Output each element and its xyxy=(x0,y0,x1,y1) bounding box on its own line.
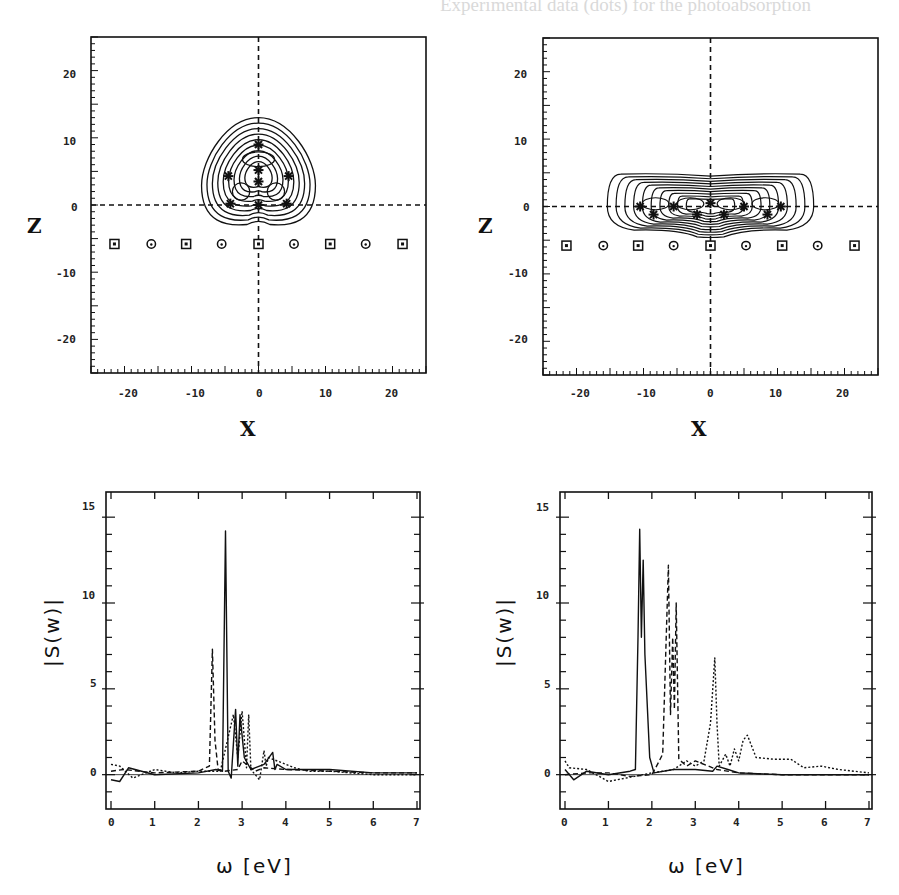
contour-left-svg xyxy=(0,0,450,440)
ion-star-icon xyxy=(706,198,716,208)
ion-star-icon xyxy=(692,210,702,220)
surface-circle-dot xyxy=(150,243,152,245)
y-tick-label: -20 xyxy=(508,333,528,346)
y-tick-label: 0 xyxy=(544,767,551,780)
surface-circle-dot xyxy=(602,245,604,247)
ion-star-icon xyxy=(254,176,264,186)
y-axis-title: Z xyxy=(27,214,42,238)
surface-square-dot xyxy=(257,242,260,245)
ion-star-icon xyxy=(635,202,645,212)
y-tick-label: 20 xyxy=(63,68,76,81)
y-tick-label: 5 xyxy=(544,678,551,691)
ion-star-icon xyxy=(719,210,729,220)
spectrum-curve-dashed xyxy=(565,565,869,776)
ion-star-icon xyxy=(762,210,772,220)
surface-circle-dot xyxy=(365,243,367,245)
ion-star-icon xyxy=(254,200,264,210)
y-tick-label: 0 xyxy=(523,201,530,214)
x-tick-label: 0 xyxy=(707,387,714,400)
surface-square-dot xyxy=(185,242,188,245)
density-lobe xyxy=(752,198,779,210)
x-tick-label: -20 xyxy=(118,387,138,400)
y-tick-label: -20 xyxy=(56,333,76,346)
surface-square-dot xyxy=(329,242,332,245)
x-tick-label: 10 xyxy=(319,387,332,400)
y-tick-label: 0 xyxy=(90,766,97,779)
surface-circle-dot xyxy=(672,245,674,247)
surface-circle-dot xyxy=(817,245,819,247)
x-tick-label: -20 xyxy=(570,387,590,400)
spectrum-left-svg xyxy=(0,440,450,895)
x-axis-title: X xyxy=(240,417,256,441)
x-tick-label: 20 xyxy=(385,387,398,400)
density-lobe xyxy=(677,198,704,210)
contour-right-svg xyxy=(450,0,899,440)
x-tick-label: -10 xyxy=(636,387,656,400)
ion-star-icon xyxy=(669,202,679,212)
ion-star-icon xyxy=(776,202,786,212)
x-axis-title: ω [eV] xyxy=(668,854,745,878)
surface-square-dot xyxy=(781,244,784,247)
surface-square-dot xyxy=(401,242,404,245)
contour-plot-left: 20 10 0 -10 -20 -20 -10 0 10 20 X Z xyxy=(0,0,450,440)
ion-star-icon xyxy=(254,140,264,150)
x-tick-label: 4 xyxy=(733,816,740,829)
y-axis-title: |S(w)| xyxy=(492,592,516,672)
x-tick-label: 0 xyxy=(561,816,568,829)
surface-circle-dot xyxy=(745,245,747,247)
x-tick-label: 3 xyxy=(690,816,697,829)
contour-plot-right: 20 10 0 -10 -20 -20 -10 0 10 20 X Z xyxy=(450,0,899,440)
y-tick-label: -10 xyxy=(56,267,76,280)
x-tick-label: 2 xyxy=(646,816,653,829)
y-tick-label: 10 xyxy=(536,589,549,602)
surface-square-dot xyxy=(709,244,712,247)
density-lobe xyxy=(642,198,669,210)
y-tick-label: 10 xyxy=(514,135,527,148)
surface-circle-dot xyxy=(293,243,295,245)
surface-circle-dot xyxy=(220,243,222,245)
surface-square-dot xyxy=(565,244,568,247)
spectrum-right-svg xyxy=(450,440,899,895)
y-axis-title: |S(w)| xyxy=(40,592,64,672)
x-tick-label: 1 xyxy=(602,816,609,829)
x-tick-label: 6 xyxy=(370,816,377,829)
x-axis-title: X xyxy=(691,417,707,441)
y-tick-label: 20 xyxy=(514,68,527,81)
ion-star-icon xyxy=(284,171,294,181)
x-tick-label: 10 xyxy=(769,387,782,400)
y-tick-label: 15 xyxy=(536,501,549,514)
x-tick-label: 20 xyxy=(836,387,849,400)
ion-star-icon xyxy=(254,165,264,175)
spectrum-plot-left: 15 10 5 0 0 1 2 3 4 5 6 7 ω [eV] |S(w)| xyxy=(0,440,450,895)
y-tick-label: 10 xyxy=(63,135,76,148)
x-tick-label: 5 xyxy=(777,816,784,829)
y-tick-label: 10 xyxy=(82,589,95,602)
y-tick-label: 0 xyxy=(71,201,78,214)
x-tick-label: 1 xyxy=(149,816,156,829)
x-axis-title: ω [eV] xyxy=(216,854,293,878)
y-axis-title: Z xyxy=(478,214,493,238)
ion-star-icon xyxy=(282,199,292,209)
ion-star-icon xyxy=(223,171,233,181)
spectrum-plot-right: 15 10 5 0 0 1 2 3 4 5 6 7 ω [eV] |S(w)| xyxy=(450,440,899,895)
surface-square-dot xyxy=(853,244,856,247)
x-tick-label: 2 xyxy=(194,816,201,829)
spectrum-curve-dotted xyxy=(565,658,869,782)
ion-star-icon xyxy=(225,199,235,209)
plot-frame xyxy=(560,492,872,809)
spectrum-curve-dotted xyxy=(111,711,417,780)
x-tick-label: 0 xyxy=(108,816,115,829)
spectrum-curve-solid xyxy=(565,529,869,780)
x-tick-label: 5 xyxy=(326,816,333,829)
y-tick-label: 15 xyxy=(82,500,95,513)
surface-square-dot xyxy=(113,242,116,245)
y-tick-label: -10 xyxy=(508,267,528,280)
spectrum-curve-solid xyxy=(111,531,417,782)
y-tick-label: 5 xyxy=(90,677,97,690)
x-tick-label: 3 xyxy=(238,816,245,829)
x-tick-label: 6 xyxy=(821,816,828,829)
x-tick-label: 4 xyxy=(282,816,289,829)
ion-star-icon xyxy=(739,202,749,212)
x-tick-label: 0 xyxy=(256,387,263,400)
x-tick-label: 7 xyxy=(413,816,420,829)
